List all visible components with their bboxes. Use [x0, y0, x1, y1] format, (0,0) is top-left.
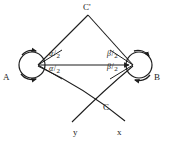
edge-a-to-cprime [38, 15, 88, 65]
axis-label-y: y [73, 128, 78, 137]
geometry-diagram: A B C' C y x α/2 α/2 β/2 β/2 [0, 0, 170, 144]
diagram-canvas [0, 0, 170, 144]
angle-denominator: 2 [56, 67, 60, 75]
angle-denominator: 2 [56, 52, 60, 60]
vertex-label-a: A [3, 73, 10, 82]
angle-label-alpha-lower: α/2 [49, 65, 60, 73]
vertex-label-b: B [154, 73, 160, 82]
axis-label-x: x [117, 128, 122, 137]
angle-denominator: 2 [114, 65, 118, 73]
angle-label-beta-lower: β/2 [107, 63, 118, 71]
vertex-label-c: C [103, 103, 109, 112]
angle-denominator: 2 [114, 52, 118, 60]
angle-label-alpha-upper: α/2 [49, 50, 60, 58]
angle-label-beta-upper: β/2 [107, 50, 118, 58]
edge-b-lower-curve [72, 66, 133, 122]
vertex-label-c-prime: C' [83, 3, 91, 12]
